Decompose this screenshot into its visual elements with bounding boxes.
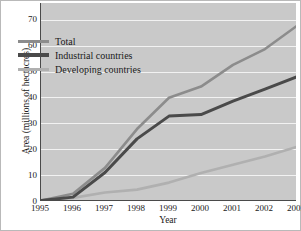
legend-item: Industrial countries (18, 48, 141, 62)
y-tick-label: 20 (3, 145, 37, 154)
series-lines (41, 3, 296, 201)
legend-label: Industrial countries (55, 50, 132, 61)
legend-swatch (18, 68, 49, 71)
y-axis-tick-labels: 010203040506070 (1, 1, 37, 203)
y-tick-label: 30 (3, 119, 37, 128)
legend-swatch (18, 40, 49, 43)
legend-item: Total (18, 34, 141, 48)
legend-swatch (18, 53, 49, 57)
legend-label: Total (55, 36, 75, 47)
x-axis-title: Year (40, 215, 296, 225)
y-tick-label: 10 (3, 171, 37, 180)
chart-legend: TotalIndustrial countriesDeveloping coun… (18, 34, 141, 76)
legend-item: Developing countries (18, 62, 141, 76)
chart-figure: Area (millions of hectacres) 01020304050… (0, 0, 301, 231)
plot-area (40, 3, 296, 201)
legend-label: Developing countries (55, 64, 141, 75)
x-tick-label: 2003 (276, 203, 301, 213)
y-tick-label: 40 (3, 93, 37, 102)
y-tick-label: 70 (3, 15, 37, 24)
